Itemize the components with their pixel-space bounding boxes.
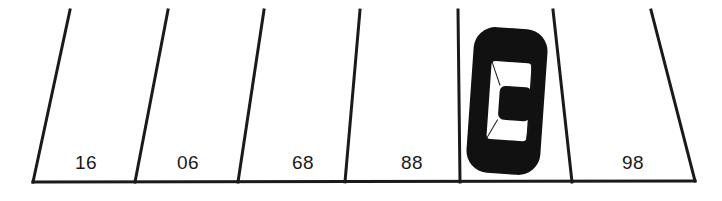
parking-lot-svg: 16 06 68 88 98 [0,0,722,201]
bottom-curb-line [33,181,695,182]
stall-label-6: 98 [622,152,644,173]
stall-label-3: 68 [292,152,314,173]
stall-label-1: 16 [75,152,97,173]
parked-car [465,26,549,177]
stall-label-4: 88 [401,152,423,173]
car-roof-panel [498,85,532,121]
stall-label-2: 06 [177,152,199,173]
stall-divider-line [458,10,460,182]
parking-lot-diagram: 16 06 68 88 98 [0,0,722,201]
diagram-background [0,0,722,201]
